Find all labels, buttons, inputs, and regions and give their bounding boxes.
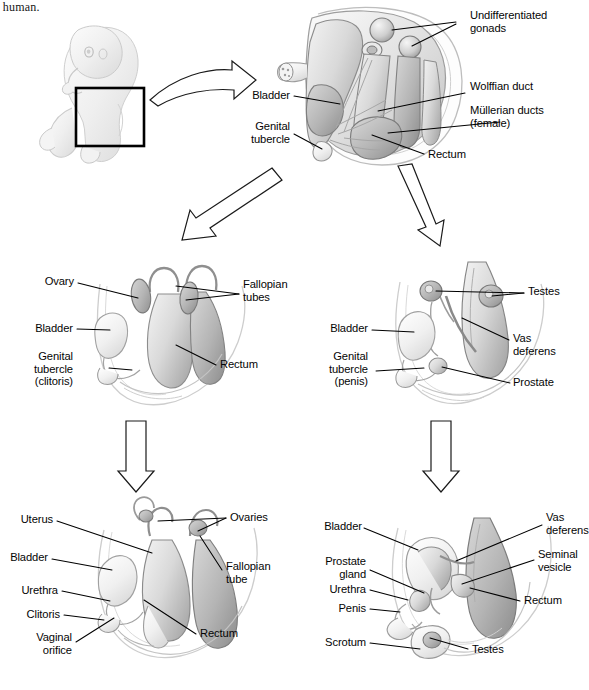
label-rectum-male-mat: Rectum [524, 594, 562, 607]
label-bladder-female-int: Bladder [0, 322, 73, 335]
label-rectum-undiff: Rectum [428, 148, 466, 161]
label-genital-tubercle-undiff: Genital tubercle [180, 120, 290, 145]
label-undifferentiated-gonads: Undifferentiated gonads [470, 9, 547, 34]
label-rectum-female-mat: Rectum [200, 627, 238, 640]
label-bladder-female-mat: Bladder [0, 551, 48, 564]
label-uterus: Uterus [0, 513, 53, 526]
label-genital-tubercle-clitoris: Genital tubercle (clitoris) [0, 350, 73, 388]
label-wolffian-duct: Wolffian duct [470, 80, 533, 93]
label-penis: Penis [296, 602, 366, 615]
label-scrotum: Scrotum [296, 636, 366, 649]
arrow-female-down [118, 421, 154, 492]
label-testes-male-int: Testes [528, 285, 560, 298]
label-mullerian-ducts: Müllerian ducts (female) [470, 104, 544, 129]
label-bladder-male-int: Bladder [296, 322, 368, 335]
label-bladder-male-mat: Bladder [296, 520, 362, 533]
label-seminal-vesicle: Seminal vesicle [538, 548, 578, 573]
label-clitoris: Clitoris [0, 608, 60, 621]
arrow-to-female [182, 168, 282, 240]
label-rectum-female-int: Rectum [220, 358, 258, 371]
label-vaginal-orifice: Vaginal orifice [0, 631, 72, 656]
label-fallopian-tubes: Fallopian tubes [243, 278, 288, 303]
label-testes-male-mat: Testes [472, 643, 504, 656]
undifferentiated-artwork [278, 7, 462, 165]
label-bladder-undiff: Bladder [180, 89, 290, 102]
label-vas-deferens-male-mat: Vas deferens [546, 511, 589, 536]
label-vas-deferens-male-int: Vas deferens [513, 332, 556, 357]
label-ovaries: Ovaries [230, 511, 268, 524]
label-urethra: Urethra [0, 584, 58, 597]
label-ovary: Ovary [0, 275, 74, 288]
label-prostate: Prostate [513, 376, 554, 389]
label-fallopian-tube: Fallopian tube [226, 560, 271, 585]
arrow-male-down [423, 421, 459, 492]
label-prostate-gland: Prostate gland [296, 555, 366, 580]
female-intermediate-artwork [95, 266, 245, 405]
label-genital-tubercle-penis: Genital tubercle (penis) [296, 350, 368, 388]
label-urethra-male: Urethra [296, 583, 366, 596]
arrow-to-male [398, 164, 444, 246]
fetus-drawing [40, 26, 144, 163]
